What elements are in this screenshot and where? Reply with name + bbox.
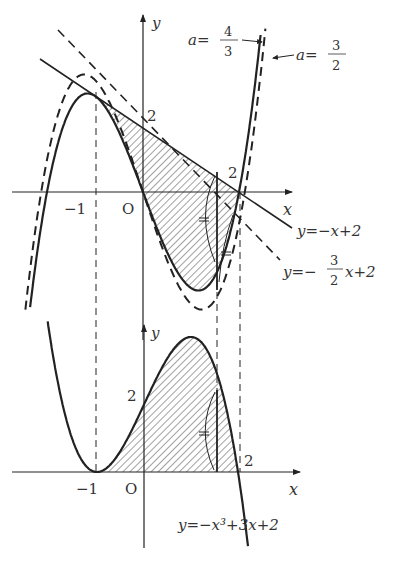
bottom-tick-y-2: 2 (127, 387, 137, 405)
bottom-x-label: x (289, 480, 298, 499)
bottom-tick-x-neg1: −1 (76, 480, 98, 498)
label-line-solid: y=−x+2 (296, 222, 361, 240)
svg-text:3: 3 (224, 44, 232, 59)
svg-text:x+2: x+2 (345, 263, 376, 281)
bottom-origin-label: O (125, 480, 137, 498)
svg-text:2: 2 (330, 273, 338, 288)
svg-text:a=: a= (188, 31, 210, 49)
top-tick-x-2: 2 (228, 164, 238, 182)
label-bottom-curve: y=−x³+3x+2 (177, 516, 279, 534)
label-line-dashed: y=− 3 2 x+2 (282, 253, 376, 288)
top-origin-label: O (122, 200, 134, 218)
svg-text:3: 3 (332, 38, 340, 53)
svg-text:y=−: y=− (282, 263, 317, 281)
top-tick-y-2: 2 (147, 107, 157, 125)
bottom-graph: y x O −1 2 2 y=−x³+3x+2 (12, 321, 300, 548)
top-x-label: x (283, 200, 292, 219)
label-a-3-2: a= 3 2 (296, 38, 346, 73)
svg-text:2: 2 (332, 58, 340, 73)
label-a-4-3: a= 4 3 (188, 24, 238, 59)
svg-text:3: 3 (330, 253, 338, 268)
bottom-tick-x-2: 2 (244, 452, 254, 470)
top-y-label: y (151, 14, 161, 32)
svg-text:a=: a= (296, 46, 318, 64)
top-tick-x-neg1: −1 (64, 200, 86, 218)
arrow-a-3-2 (273, 55, 294, 58)
diagram-canvas: y x O −1 2 2 a= 4 3 a= 3 2 y=−x+2 y=− 3 … (0, 0, 400, 565)
svg-text:4: 4 (224, 24, 232, 39)
bottom-y-label: y (150, 324, 160, 342)
